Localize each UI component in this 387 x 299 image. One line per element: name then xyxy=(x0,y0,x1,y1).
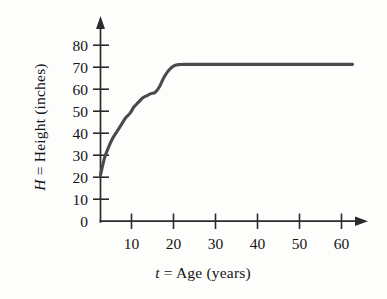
y-tick-label-0: 0 xyxy=(80,213,88,230)
y-tick-label-40: 40 xyxy=(73,125,89,142)
y-axis-label-text: = Height (inches) xyxy=(31,63,48,175)
x-tick-label-60: 60 xyxy=(334,235,350,252)
y-tick-label-50: 50 xyxy=(73,103,89,120)
x-tick-label-20: 20 xyxy=(166,235,182,252)
y-tick-label-10: 10 xyxy=(73,191,89,208)
y-tick-label-20: 20 xyxy=(73,169,89,186)
y-axis-tick-labels: 80 70 60 50 40 30 20 10 0 xyxy=(73,37,89,230)
x-tick-label-30: 30 xyxy=(208,235,224,252)
y-tick-label-80: 80 xyxy=(73,37,89,54)
x-axis-label-text: = Age (years) xyxy=(164,264,251,281)
x-tick-label-50: 50 xyxy=(292,235,308,252)
x-axis-tick-labels: 10 20 30 40 50 60 xyxy=(124,235,350,252)
y-axis-label: H = Height (inches) xyxy=(31,47,49,207)
y-tick-label-70: 70 xyxy=(73,59,89,76)
chart-figure: 80 70 60 50 40 30 20 10 0 10 20 30 40 50… xyxy=(0,0,387,299)
chart-plot-area: 80 70 60 50 40 30 20 10 0 10 20 30 40 50… xyxy=(0,0,387,299)
y-axis-arrowhead-icon xyxy=(96,16,105,29)
height-growth-curve xyxy=(101,64,353,175)
x-axis-arrowhead-icon xyxy=(355,217,368,226)
y-tick-label-60: 60 xyxy=(73,81,89,98)
x-tick-label-40: 40 xyxy=(250,235,266,252)
x-axis-label-symbol: t xyxy=(155,264,160,281)
y-axis-label-symbol: H xyxy=(31,179,48,190)
x-tick-label-10: 10 xyxy=(124,235,140,252)
y-tick-label-30: 30 xyxy=(73,147,89,164)
x-axis-label: t = Age (years) xyxy=(108,264,298,282)
